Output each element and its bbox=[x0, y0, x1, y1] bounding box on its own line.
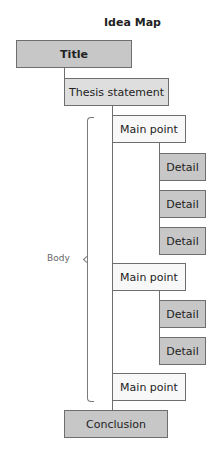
title-node: Title bbox=[16, 40, 132, 68]
thesis-node: Thesis statement bbox=[64, 78, 169, 106]
detail-node-2-2: Detail bbox=[159, 337, 206, 365]
detail-node-1-3: Detail bbox=[159, 227, 206, 255]
main-point-node-1: Main point bbox=[112, 115, 186, 143]
body-label: Body bbox=[47, 253, 70, 263]
connector-spine bbox=[112, 105, 113, 411]
detail-node-1-2: Detail bbox=[159, 190, 206, 218]
conclusion-node: Conclusion bbox=[64, 410, 168, 438]
detail-node-2-1: Detail bbox=[159, 300, 206, 328]
diagram-title: Idea Map bbox=[0, 16, 217, 29]
connector-title-thesis bbox=[64, 67, 65, 78]
detail-node-1-1: Detail bbox=[159, 153, 206, 181]
main-point-node-3: Main point bbox=[112, 373, 186, 401]
main-point-node-2: Main point bbox=[112, 263, 186, 291]
